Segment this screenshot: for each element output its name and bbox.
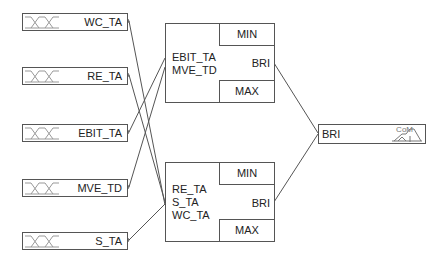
rule-input-label: WC_TA bbox=[172, 209, 210, 222]
fuzzy-terms-icon bbox=[25, 16, 59, 29]
input-variable-wc-ta[interactable]: WC_TA bbox=[22, 13, 128, 31]
variable-label: MVE_TD bbox=[77, 182, 122, 195]
wire-mve-td-rb1 bbox=[129, 67, 165, 187]
aggregation-operator-min: MIN bbox=[219, 23, 275, 46]
fuzzy-terms-icon bbox=[25, 235, 59, 248]
fuzzy-terms-icon bbox=[25, 127, 59, 140]
rule-block-inputs: EBIT_TA MVE_TD bbox=[172, 51, 217, 77]
fuzzy-terms-icon bbox=[25, 70, 59, 83]
rule-input-label: EBIT_TA bbox=[172, 51, 217, 64]
rule-input-label: S_TA bbox=[172, 196, 210, 209]
aggregation-operator-min: MIN bbox=[219, 162, 275, 185]
rule-output-label: BRI bbox=[252, 197, 270, 210]
input-variable-s-ta[interactable]: S_TA bbox=[22, 232, 128, 250]
wire-rb1-bri bbox=[274, 63, 318, 133]
rule-output-label: BRI bbox=[252, 57, 270, 70]
wire-s-ta-rb2 bbox=[129, 204, 165, 240]
defuzzification-method: CoM bbox=[396, 125, 413, 134]
fuzzy-terms-icon bbox=[25, 182, 59, 195]
rule-input-label: RE_TA bbox=[172, 183, 210, 196]
result-operator-max: MAX bbox=[219, 80, 275, 103]
variable-label: BRI bbox=[322, 128, 340, 141]
input-variable-re-ta[interactable]: RE_TA bbox=[22, 67, 128, 85]
rule-block-inputs: RE_TA S_TA WC_TA bbox=[172, 183, 210, 222]
variable-label: RE_TA bbox=[87, 70, 122, 83]
input-variable-ebit-ta[interactable]: EBIT_TA bbox=[22, 124, 128, 142]
rule-input-label: MVE_TD bbox=[172, 64, 217, 77]
rule-block-2[interactable]: MIN RE_TA S_TA WC_TA BRI MAX bbox=[165, 162, 275, 242]
result-operator-max: MAX bbox=[219, 219, 275, 242]
variable-label: EBIT_TA bbox=[78, 127, 122, 140]
variable-label: WC_TA bbox=[84, 16, 122, 29]
wire-rb2-bri bbox=[274, 134, 318, 202]
rule-block-1[interactable]: MIN EBIT_TA MVE_TD BRI MAX bbox=[165, 23, 275, 103]
variable-label: S_TA bbox=[95, 235, 122, 248]
input-variable-mve-td[interactable]: MVE_TD bbox=[22, 179, 128, 197]
output-variable-bri[interactable]: BRI CoM bbox=[318, 124, 426, 144]
wire-wc-ta-rb2 bbox=[129, 21, 165, 205]
